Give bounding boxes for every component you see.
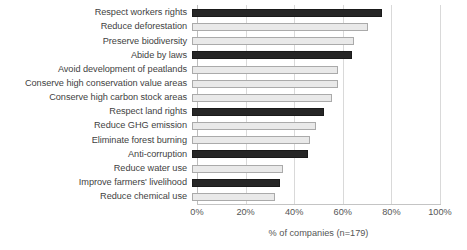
category-label: Preserve biodiversity <box>0 37 192 47</box>
category-label: Reduce deforestation <box>0 22 192 32</box>
bar[interactable] <box>192 80 338 88</box>
bar[interactable] <box>192 51 352 59</box>
category-label: Respect land rights <box>0 107 192 117</box>
bar[interactable] <box>192 94 332 102</box>
x-axis-title: % of companies (n=179) <box>197 228 440 238</box>
category-label: Anti-corruption <box>0 150 192 160</box>
category-label: Abide by laws <box>0 51 192 61</box>
bar-track <box>192 105 467 119</box>
bar-track <box>192 147 467 161</box>
x-tick-label: 40% <box>285 207 303 217</box>
category-label: Reduce GHG emission <box>0 121 192 131</box>
bar[interactable] <box>192 108 324 116</box>
x-tick-label: 80% <box>382 207 400 217</box>
plot-area: Respect workers rightsReduce deforestati… <box>0 0 467 210</box>
category-label: Eliminate forest burning <box>0 136 192 146</box>
x-tick-label: 100% <box>428 207 452 217</box>
x-tick-label: 60% <box>334 207 352 217</box>
bar[interactable] <box>192 66 338 74</box>
bar-track <box>192 176 467 190</box>
bar-row: Improve farmers' livelihood <box>0 176 467 190</box>
bar-row: Reduce chemical use <box>0 190 467 204</box>
bar-row: Reduce water use <box>0 162 467 176</box>
bar-row: Eliminate forest burning <box>0 133 467 147</box>
bar-row: Conserve high carbon stock areas <box>0 91 467 105</box>
bar[interactable] <box>192 122 316 130</box>
category-label: Improve farmers' livelihood <box>0 178 192 188</box>
category-label: Reduce chemical use <box>0 192 192 202</box>
x-axis-tick-labels: 0%20%40%60%80%100% <box>197 207 440 223</box>
bar-track <box>192 133 467 147</box>
x-axis-line <box>197 204 441 205</box>
category-label: Conserve high carbon stock areas <box>0 93 192 103</box>
bar[interactable] <box>192 9 382 17</box>
bar-row: Abide by laws <box>0 48 467 62</box>
bar[interactable] <box>192 136 310 144</box>
bar-track <box>192 119 467 133</box>
bar-track <box>192 77 467 91</box>
bar-row: Anti-corruption <box>0 147 467 161</box>
bar-track <box>192 20 467 34</box>
bar-track <box>192 162 467 176</box>
bar-track <box>192 48 467 62</box>
bar-track <box>192 190 467 204</box>
category-label: Reduce water use <box>0 164 192 174</box>
x-tick-label: 20% <box>236 207 254 217</box>
bar[interactable] <box>192 179 280 187</box>
bar[interactable] <box>192 165 283 173</box>
bar-row: Reduce GHG emission <box>0 119 467 133</box>
category-label: Avoid development of peatlands <box>0 65 192 75</box>
bar[interactable] <box>192 193 275 201</box>
category-label: Respect workers rights <box>0 8 192 18</box>
bar-row: Conserve high conservation value areas <box>0 77 467 91</box>
bar-row: Respect land rights <box>0 105 467 119</box>
bar[interactable] <box>192 37 354 45</box>
bar-row: Preserve biodiversity <box>0 34 467 48</box>
horizontal-bar-chart: Respect workers rightsReduce deforestati… <box>0 0 467 250</box>
bar-rows: Respect workers rightsReduce deforestati… <box>0 6 467 204</box>
bar-track <box>192 6 467 20</box>
bar[interactable] <box>192 150 308 158</box>
category-label: Conserve high conservation value areas <box>0 79 192 89</box>
x-tick-label: 0% <box>190 207 203 217</box>
bar[interactable] <box>192 23 368 31</box>
bar-row: Avoid development of peatlands <box>0 63 467 77</box>
bar-track <box>192 91 467 105</box>
bar-track <box>192 34 467 48</box>
bar-row: Reduce deforestation <box>0 20 467 34</box>
bar-row: Respect workers rights <box>0 6 467 20</box>
bar-track <box>192 63 467 77</box>
